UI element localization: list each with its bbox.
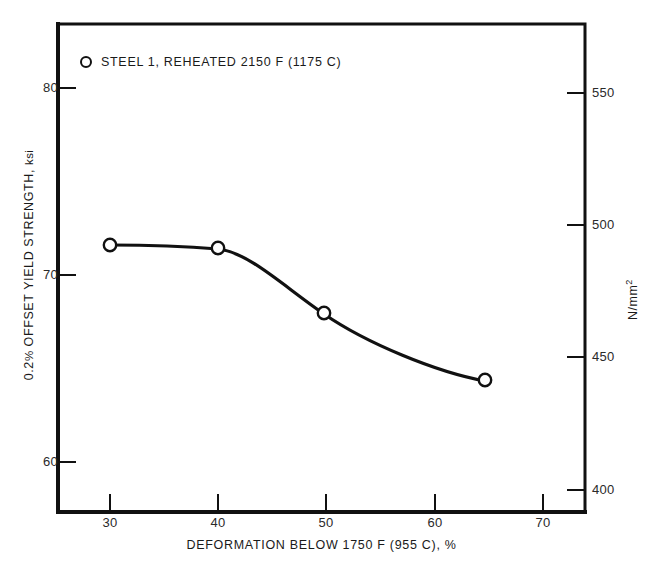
xtick-label: 30 <box>90 515 130 530</box>
ytick-label-right: 400 <box>592 482 632 497</box>
ytick-label-right: 450 <box>592 349 632 364</box>
xtick-label: 50 <box>306 515 346 530</box>
x-axis-title: DEFORMATION BELOW 1750 F (955 C), % <box>58 538 585 552</box>
data-point <box>212 242 224 254</box>
xtick-label: 60 <box>415 515 455 530</box>
ytick-marks-right <box>567 93 585 490</box>
y-axis-title-right-exponent: 2 <box>624 279 634 285</box>
data-point-markers <box>104 239 491 386</box>
data-point <box>479 374 491 386</box>
xtick-label: 40 <box>198 515 238 530</box>
data-point <box>104 239 116 251</box>
xtick-marks <box>110 494 543 512</box>
plot-area <box>0 0 650 571</box>
legend-label: STEEL 1, REHEATED 2150 F (1175 C) <box>101 55 341 69</box>
ytick-marks-left <box>58 88 76 462</box>
y-axis-title-right-text: N/mm <box>626 285 640 320</box>
y-axis-title-left-percent: % <box>23 350 35 361</box>
ytick-label-right: 550 <box>592 85 632 100</box>
y-axis-title-left-main: OFFSET YIELD STRENGTH, <box>22 165 36 351</box>
chart-legend: STEEL 1, REHEATED 2150 F (1175 C) <box>80 55 341 69</box>
chart-figure: STEEL 1, REHEATED 2150 F (1175 C) 80 70 … <box>0 0 650 571</box>
data-curve-steel-1 <box>110 245 485 381</box>
y-axis-title-left-prefix: 0.2 <box>22 361 36 380</box>
data-point <box>318 307 330 319</box>
y-axis-title-right: N/mm2 <box>624 279 640 320</box>
legend-open-circle-icon <box>80 56 92 68</box>
y-axis-title-left-unit: ksi <box>23 150 35 165</box>
xtick-label: 70 <box>523 515 563 530</box>
ytick-label-right: 500 <box>592 217 632 232</box>
axis-frame-left-bottom <box>58 24 585 512</box>
y-axis-title-left: 0.2% OFFSET YIELD STRENGTH, ksi <box>22 30 36 500</box>
axis-frame-top-right <box>58 24 585 512</box>
